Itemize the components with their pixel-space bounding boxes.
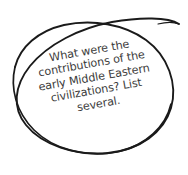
ellipse-tail-icon — [158, 23, 179, 25]
handwritten-note-canvas: What were the contributions of the early… — [0, 0, 188, 175]
